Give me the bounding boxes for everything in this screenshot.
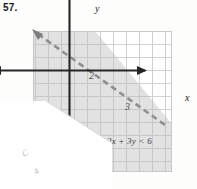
x-axis-right-arrow-icon xyxy=(137,66,147,75)
y-axis-label: y xyxy=(95,3,99,14)
y-tick-label-2: 2 xyxy=(89,70,94,81)
x-axis-label: x xyxy=(185,92,189,103)
x-tick-label-3: 3 xyxy=(125,101,130,112)
figure-root: 57. 2 3 y x 2x + 3y < 6 C 4 xyxy=(0,0,197,189)
x-axis-left-arrow-icon xyxy=(0,66,1,75)
inequality-annotation: 2x + 3y < 6 xyxy=(107,136,152,146)
